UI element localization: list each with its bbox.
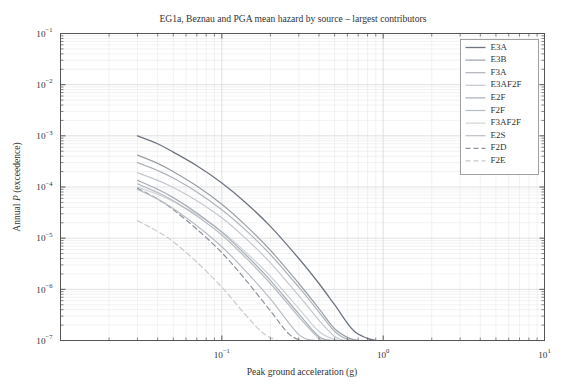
legend-label-e3b[interactable]: E3B bbox=[491, 54, 507, 64]
legend-label-f2f[interactable]: F2F bbox=[491, 105, 506, 115]
legend-label-f2d[interactable]: F2D bbox=[491, 142, 508, 152]
chart-legend[interactable]: E3AE3BF3AE3AF2FE2FF2FF3AF2FE2SF2DF2E bbox=[461, 40, 539, 175]
legend-label-f3af2f[interactable]: F3AF2F bbox=[491, 117, 522, 127]
legend-label-e3af2f[interactable]: E3AF2F bbox=[491, 79, 522, 89]
legend-label-e3a[interactable]: E3A bbox=[491, 42, 508, 52]
legend-label-e2f[interactable]: E2F bbox=[491, 92, 506, 102]
chart-title: EG1a, Beznau and PGA mean hazard by sour… bbox=[159, 13, 426, 24]
legend-label-f2e[interactable]: F2E bbox=[491, 155, 507, 165]
y-axis-label: Annual P (exceedence) bbox=[11, 142, 23, 232]
legend-label-e2s[interactable]: E2S bbox=[491, 130, 506, 140]
x-axis-label: Peak ground acceleration (g) bbox=[247, 366, 358, 378]
legend-label-f3a[interactable]: F3A bbox=[491, 67, 508, 77]
hazard-curve-figure: EG1a, Beznau and PGA mean hazard by sour… bbox=[0, 0, 569, 391]
